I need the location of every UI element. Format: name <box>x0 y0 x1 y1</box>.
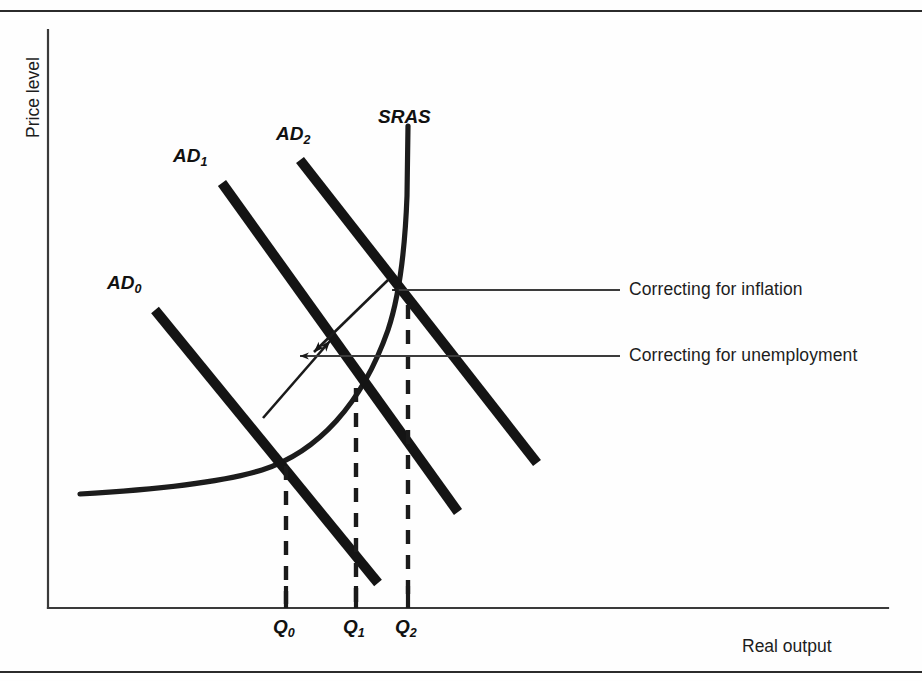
tick-label-q0-base: Q <box>273 616 288 637</box>
x-tick-marks <box>286 586 408 608</box>
axis-group <box>48 30 888 608</box>
figure-root: Price level Real output AD0 AD1 AD2 SRAS… <box>0 0 922 681</box>
annotation-correcting-for-unemployment: Correcting for unemployment <box>629 345 857 366</box>
curve-label-ad0-sub: 0 <box>134 282 141 296</box>
tick-label-q2: Q2 <box>395 616 417 638</box>
diagram-canvas <box>0 0 922 681</box>
tick-label-q1: Q1 <box>343 616 365 638</box>
curve-label-sras-base: SRAS <box>378 106 431 127</box>
shift-arrows <box>263 280 388 418</box>
expansion-arrow <box>263 341 330 418</box>
tick-label-q2-sub: 2 <box>410 626 417 640</box>
tick-label-q2-base: Q <box>395 616 410 637</box>
annotation-leaders <box>300 290 620 356</box>
curve-label-ad2-base: AD <box>276 123 303 144</box>
tick-label-q1-base: Q <box>343 616 358 637</box>
ad1-line <box>222 183 458 512</box>
y-axis-label: Price level <box>23 38 44 158</box>
tick-label-q0: Q0 <box>273 616 295 638</box>
curve-label-ad1: AD1 <box>173 145 207 167</box>
curve-label-ad0: AD0 <box>107 272 141 294</box>
tick-label-q0-sub: 0 <box>288 626 295 640</box>
tick-label-q1-sub: 1 <box>358 626 365 640</box>
contraction-arrow <box>314 280 388 352</box>
ad2-line <box>300 160 537 463</box>
curve-label-ad0-base: AD <box>107 272 134 293</box>
curve-label-ad1-base: AD <box>173 145 200 166</box>
curve-label-ad2: AD2 <box>276 123 310 145</box>
curve-label-sras: SRAS <box>378 106 431 128</box>
ad-curves <box>155 160 537 583</box>
curve-label-ad1-sub: 1 <box>200 155 207 169</box>
annotation-correcting-for-inflation: Correcting for inflation <box>629 279 803 300</box>
curve-label-ad2-sub: 2 <box>303 133 310 147</box>
x-axis-label: Real output <box>742 636 832 657</box>
